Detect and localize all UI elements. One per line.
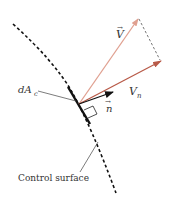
normal-vector-label: n <box>106 103 112 114</box>
control-surface-diagram: → V V n → n dA c Control surface <box>0 0 175 207</box>
control-surface-curve <box>13 24 116 193</box>
control-surface-leader <box>80 142 98 172</box>
normal-velocity-arrow <box>79 61 161 104</box>
normal-velocity-subscript: n <box>137 92 142 100</box>
area-element-subscript: c <box>34 90 38 98</box>
velocity-label: V <box>116 28 125 41</box>
area-element-label: dA <box>18 84 32 95</box>
projection-dashed-line <box>139 19 160 60</box>
control-surface-label: Control surface <box>18 173 89 183</box>
